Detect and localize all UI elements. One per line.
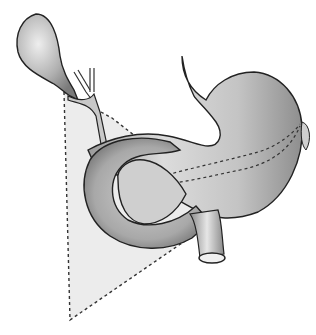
anatomy-illustration: [0, 0, 316, 335]
gallbladder: [17, 14, 78, 100]
mesenteric-vessel: [190, 210, 225, 263]
anatomy-figure: Anatomical illustration of gallbladder, …: [0, 0, 316, 335]
